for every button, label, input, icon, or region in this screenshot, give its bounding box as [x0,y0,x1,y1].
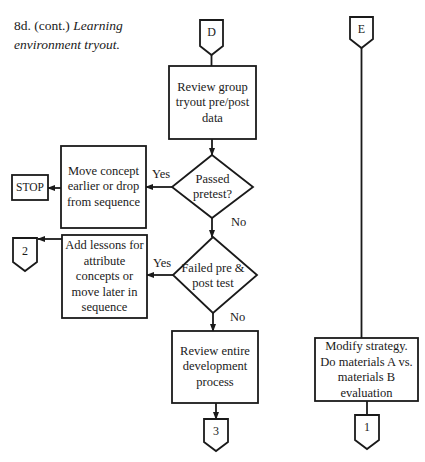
yes-label-1: Yes [152,167,170,182]
add-lessons-box: Add lessons for attribute concepts or mo… [64,237,145,317]
stop-box: STOP [12,176,48,200]
caption-number: 8d. (cont.) [14,18,70,33]
failed-pre-post-decision: Failed pre & post test [180,252,246,300]
no-label-1: No [231,215,246,230]
modify-strategy-box: Modify strategy. Do materials A vs. mate… [317,340,416,400]
review-entire-box: Review entire development process [174,333,256,401]
yes-label-2: Yes [153,256,171,271]
caption-title-line2: environment tryout. [14,37,120,52]
connector-2-label: 2 [13,244,37,259]
figure-caption: 8d. (cont.) Learning environment tryout. [14,16,123,54]
connector-e-label: E [350,22,373,37]
passed-pretest-decision: Passed pretest? [185,170,240,204]
connector-d-label: D [200,25,223,40]
move-concept-box: Move concept earlier or drop from sequen… [63,148,144,226]
connector-3-label: 3 [204,424,228,439]
caption-title-line1: Learning [73,18,123,33]
no-label-2: No [230,310,245,325]
connector-1-label: 1 [355,420,379,435]
review-group-box: Review group tryout pre/post data [171,68,254,138]
